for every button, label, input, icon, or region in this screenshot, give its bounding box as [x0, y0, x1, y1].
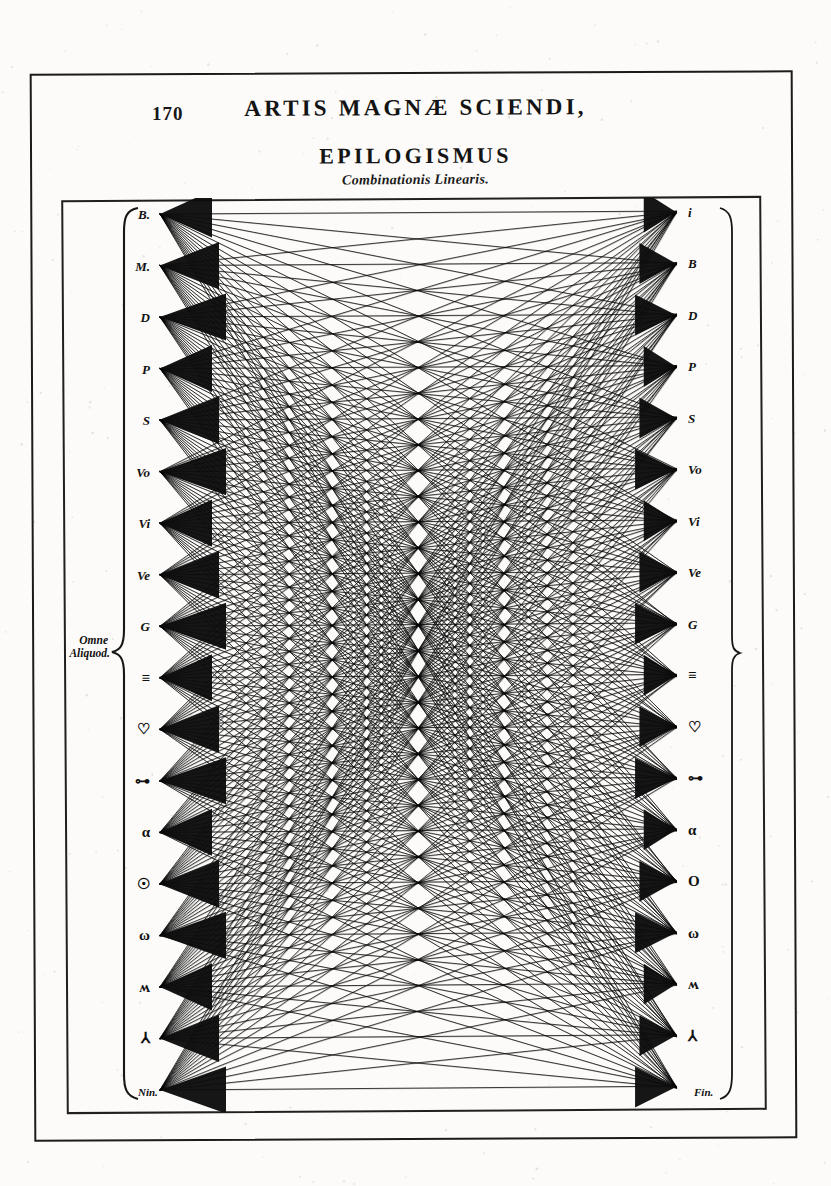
combination-diagram: Omne Aliquod. B.M.DPSVoViVeG≡♡⊶α☉ωʍ⅄ iBD… — [64, 198, 764, 1112]
brace-label-line2: Aliquod. — [68, 647, 110, 660]
node-label-right-15: ʍ — [688, 976, 699, 992]
node-label-left-7: Ve — [137, 568, 150, 583]
node-label-left-8: G — [141, 619, 151, 634]
node-label-right-5: Vo — [688, 462, 702, 477]
node-label-right-8: G — [688, 617, 698, 632]
right-brace — [720, 208, 740, 1099]
node-label-left-4: S — [143, 413, 150, 428]
bottom-right-label: Fin. — [693, 1086, 713, 1098]
node-label-left-0: B. — [137, 207, 150, 222]
node-label-right-7: Ve — [688, 565, 701, 580]
node-label-right-16: ⅄ — [687, 1028, 698, 1044]
node-label-left-1: M. — [134, 259, 150, 274]
node-label-right-12: α — [688, 822, 697, 838]
section-title: EPILOGISMUS — [0, 141, 831, 171]
node-label-right-9: ≡ — [688, 667, 697, 683]
node-label-left-6: Vi — [138, 516, 150, 531]
node-label-right-6: Vi — [688, 514, 700, 529]
node-label-right-1: B — [687, 256, 697, 271]
node-label-left-5: Vo — [136, 465, 150, 480]
node-label-right-14: ω — [688, 925, 699, 941]
left-brace — [112, 208, 138, 1099]
node-label-left-12: α — [142, 824, 151, 840]
brace-label-line1: Omne — [79, 634, 108, 646]
node-label-right-2: D — [687, 308, 698, 323]
page-number: 170 — [152, 103, 184, 125]
node-label-right-4: S — [688, 411, 695, 426]
node-label-left-15: ʍ — [139, 979, 150, 995]
node-label-left-3: P — [142, 362, 151, 377]
node-label-left-14: ω — [139, 927, 150, 943]
node-label-right-0: i — [688, 205, 692, 220]
node-label-right-11: ⊶ — [688, 770, 703, 786]
node-label-left-9: ≡ — [141, 670, 150, 686]
node-label-left-2: D — [140, 310, 151, 325]
line-lattice — [160, 211, 677, 1090]
node-label-right-3: P — [688, 359, 697, 374]
node-label-left-10: ♡ — [137, 721, 150, 737]
right-node-labels: iBDPSVoViVeG≡♡⊶αOωʍ⅄ — [687, 205, 703, 1044]
bottom-left-label: Nin. — [137, 1086, 158, 1098]
node-label-left-13: ☉ — [137, 876, 150, 892]
node-label-left-11: ⊶ — [135, 773, 150, 789]
node-label-left-16: ⅄ — [140, 1030, 151, 1046]
left-node-labels: B.M.DPSVoViVeG≡♡⊶α☉ωʍ⅄ — [134, 207, 151, 1046]
node-label-right-13: O — [688, 873, 700, 889]
page-paper: 170 ARTIS MAGNÆ SCIENDI, EPILOGISMUS Com… — [0, 0, 831, 1186]
node-label-right-10: ♡ — [688, 719, 701, 735]
diagram-svg: Omne Aliquod. B.M.DPSVoViVeG≡♡⊶α☉ωʍ⅄ iBD… — [64, 198, 764, 1112]
